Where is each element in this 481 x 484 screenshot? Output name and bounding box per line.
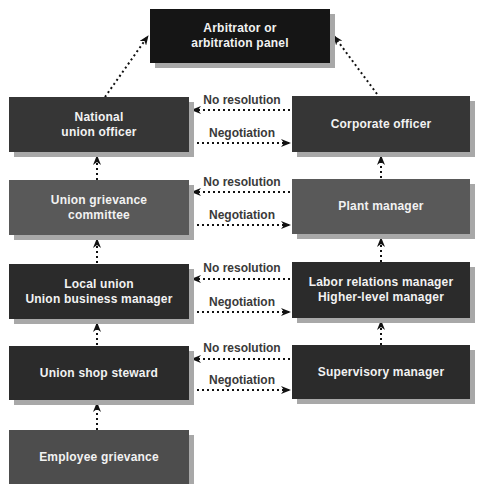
box-line2: Union business manager bbox=[25, 292, 172, 307]
box-line1: Supervisory manager bbox=[318, 365, 445, 380]
connector-lines bbox=[0, 0, 481, 484]
local-union-box: Local union Union business manager bbox=[9, 264, 189, 319]
box-line2: Higher-level manager bbox=[318, 290, 444, 305]
arbitrator-box: Arbitrator or arbitration panel bbox=[150, 9, 330, 63]
labor-relations-manager-box: Labor relations manager Higher-level man… bbox=[292, 262, 470, 318]
no-resolution-label: No resolution bbox=[192, 261, 292, 275]
box-line1: Plant manager bbox=[338, 199, 423, 214]
negotiation-label: Negotiation bbox=[192, 208, 292, 222]
box-line1: Union grievance bbox=[51, 193, 147, 208]
national-union-officer-box: National union officer bbox=[9, 97, 189, 152]
box-line1: National bbox=[75, 110, 124, 125]
negotiation-label: Negotiation bbox=[192, 126, 292, 140]
box-line1: Employee grievance bbox=[39, 450, 159, 465]
no-resolution-label: No resolution bbox=[192, 175, 292, 189]
plant-manager-box: Plant manager bbox=[292, 179, 470, 234]
box-line1: Corporate officer bbox=[331, 117, 432, 132]
box-line2: committee bbox=[68, 208, 130, 223]
no-resolution-label: No resolution bbox=[192, 341, 292, 355]
arbitrator-line2: arbitration panel bbox=[191, 36, 288, 51]
box-line1: Labor relations manager bbox=[309, 275, 454, 290]
union-grievance-committee-box: Union grievance committee bbox=[9, 180, 189, 235]
corporate-officer-box: Corporate officer bbox=[292, 96, 470, 152]
box-line1: Local union bbox=[64, 277, 134, 292]
employee-grievance-box: Employee grievance bbox=[9, 430, 189, 484]
arbitrator-line1: Arbitrator or bbox=[203, 21, 276, 36]
box-line1: Union shop steward bbox=[40, 366, 158, 381]
negotiation-label: Negotiation bbox=[192, 295, 292, 309]
box-line2: union officer bbox=[61, 125, 136, 140]
union-shop-steward-box: Union shop steward bbox=[9, 346, 189, 400]
negotiation-label: Negotiation bbox=[192, 373, 292, 387]
no-resolution-label: No resolution bbox=[192, 93, 292, 107]
supervisory-manager-box: Supervisory manager bbox=[292, 345, 470, 399]
